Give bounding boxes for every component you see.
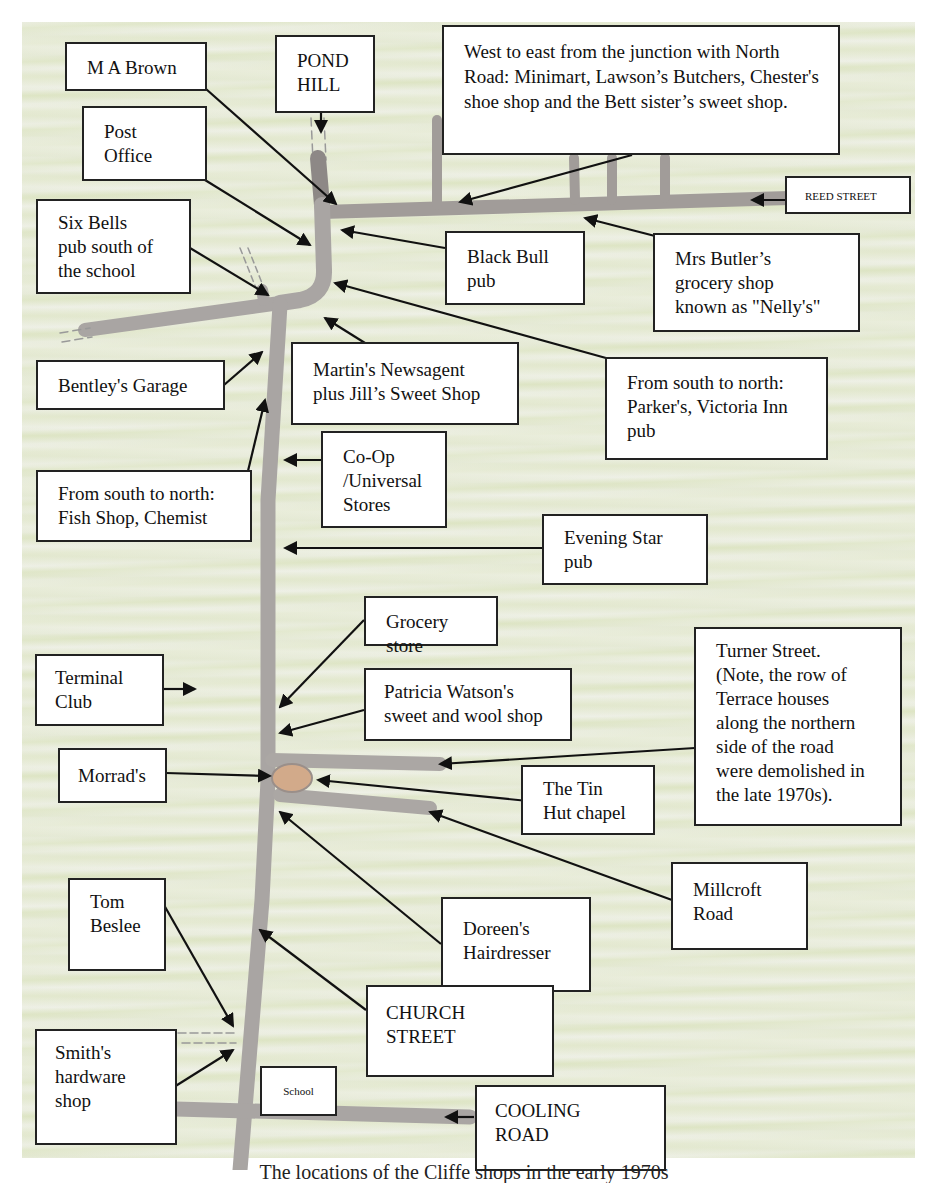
label-co-op-universal-stores: Co-Op /Universal Stores	[321, 431, 447, 528]
label-parkers-victoria-inn: From south to north: Parker's, Victoria …	[605, 357, 828, 460]
label-fish-shop-chemist: From south to north: Fish Shop, Chemist	[36, 470, 252, 542]
label-patricia-watson-shop: Patricia Watson's sweet and wool shop	[364, 668, 572, 741]
label-morrads: Morrad's	[58, 748, 167, 803]
map-caption: The locations of the Cliffe shops in the…	[0, 1161, 928, 1183]
label-doreens-hairdresser: Doreen's Hairdresser	[441, 897, 591, 992]
label-ma-brown: M A Brown	[65, 42, 207, 91]
label-terminal-club: Terminal Club	[35, 654, 164, 726]
label-post-office: Post Office	[82, 106, 207, 181]
label-reed-street: REED STREET	[785, 176, 911, 214]
label-cooling-road: COOLING ROAD	[475, 1085, 666, 1171]
label-pond-hill: POND HILL	[275, 35, 375, 113]
label-turner-street: Turner Street. (Note, the row of Terrace…	[694, 627, 902, 826]
label-six-bells-pub: Six Bells pub south of the school	[36, 199, 191, 294]
label-tom-beslee: Tom Beslee	[68, 878, 166, 971]
label-school: School	[260, 1066, 337, 1116]
label-smiths-hardware-shop: Smith's hardware shop	[35, 1029, 177, 1145]
label-millcroft-road: Millcroft Road	[671, 862, 808, 950]
tin-hut-chapel-marker	[272, 764, 312, 792]
label-tin-hut-chapel: The Tin Hut chapel	[521, 765, 655, 835]
label-mrs-butler-grocery: Mrs Butler’s grocery shop known as "Nell…	[653, 233, 860, 332]
label-church-street: CHURCH STREET	[366, 985, 554, 1077]
label-evening-star-pub: Evening Star pub	[542, 514, 708, 585]
label-black-bull-pub: Black Bull pub	[445, 231, 585, 305]
label-grocery-store: Grocery store	[364, 596, 498, 646]
label-reed-street-shops: West to east from the junction with Nort…	[442, 25, 840, 155]
label-bentleys-garage: Bentley's Garage	[36, 360, 225, 410]
label-martins-newsagent: Martin's Newsagent plus Jill’s Sweet Sho…	[291, 342, 519, 425]
